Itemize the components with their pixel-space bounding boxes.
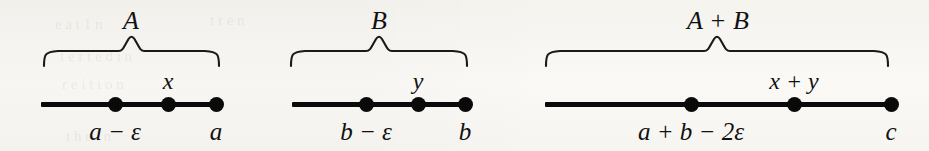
label-x: x [163, 69, 174, 93]
curly-brace-a [44, 38, 219, 66]
math-figure: e a t 1 n t r e n t e r t e d i n r e i … [0, 0, 929, 151]
label-b-minus-eps: b − ε [340, 119, 392, 144]
ghost-text-1: e a t 1 n [55, 16, 102, 33]
label-c: c [885, 119, 896, 144]
number-line-b [292, 102, 470, 107]
point-x [161, 97, 176, 112]
brace-label-a-plus-b: A + B [687, 8, 749, 34]
point-b-minus-eps [359, 97, 374, 112]
label-y: y [413, 69, 424, 93]
point-a-minus-eps [108, 97, 123, 112]
point-x-plus-y [787, 97, 802, 112]
point-c [884, 97, 899, 112]
ghost-text-2: t r e n [210, 12, 245, 29]
point-a [209, 97, 224, 112]
curly-brace-a-plus-b [546, 38, 888, 66]
point-b [458, 97, 473, 112]
label-x-plus-y: x + y [769, 69, 819, 93]
ghost-text-4: r e i t i o n [62, 76, 124, 93]
label-b: b [459, 119, 472, 144]
brace-label-b: B [371, 8, 387, 34]
curly-brace-b [291, 38, 467, 66]
label-a-plus-b-minus-2eps: a + b − 2ε [638, 119, 744, 144]
label-a-minus-eps: a − ε [89, 119, 141, 144]
point-y [411, 97, 426, 112]
point-a-plus-b-minus-2eps [684, 97, 699, 112]
label-a: a [210, 119, 223, 144]
number-line-a [41, 102, 222, 107]
brace-label-a: A [123, 8, 139, 34]
number-line-a-plus-b [545, 102, 895, 107]
